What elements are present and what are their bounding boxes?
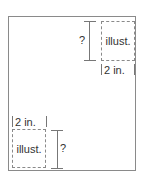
height-label: ?	[60, 143, 66, 154]
height-label: ?	[79, 35, 85, 46]
height-bracket-top-cap	[84, 21, 96, 22]
illustration-box-bottom-left: illust.	[12, 129, 46, 168]
height-bracket-line	[89, 21, 90, 61]
width-tick-right	[46, 116, 47, 127]
height-bracket-bottom-cap	[51, 168, 63, 169]
height-bracket-bottom-cap	[84, 60, 96, 61]
width-label: 2 in.	[15, 117, 36, 128]
width-tick-right	[134, 64, 135, 75]
width-tick-left	[101, 64, 102, 75]
illustration-box-top-right: illust.	[101, 21, 135, 61]
illustration-label: illust.	[105, 35, 130, 47]
height-bracket-line	[57, 130, 58, 168]
width-label: 2 in.	[104, 65, 125, 76]
illustration-label: illust.	[16, 143, 41, 155]
width-tick-left	[12, 116, 13, 127]
